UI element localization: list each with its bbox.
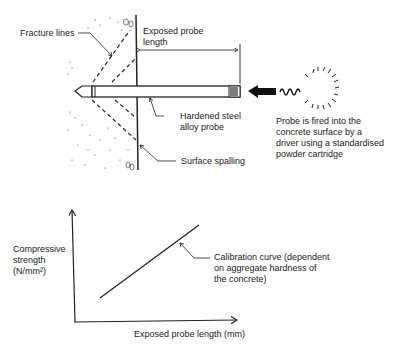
x-axis <box>74 320 237 322</box>
chart-y-label: Compressive strength (N/mm²) <box>13 244 66 277</box>
chart-x-label: Exposed probe length (mm) <box>134 329 245 340</box>
label-probe-fired: Probe is fired into the concrete surface… <box>276 116 384 160</box>
y-axis <box>72 210 75 322</box>
label-surface-spalling: Surface spalling <box>181 156 245 167</box>
probe-tip-icon <box>75 86 92 97</box>
firing-arrow-icon <box>248 85 276 98</box>
wave-squiggle-icon <box>280 89 300 95</box>
label-exposed-probe-length: Exposed probe length <box>143 26 204 48</box>
chart-annotation: Calibration curve (dependent on aggregat… <box>214 252 330 285</box>
label-fracture-lines: Fracture lines <box>20 28 75 39</box>
diagram-canvas <box>0 0 401 354</box>
calibration-curve <box>100 225 199 298</box>
explosion-burst-icon <box>305 67 339 109</box>
probe <box>75 86 240 97</box>
label-hardened-probe: Hardened steel alloy probe <box>180 111 241 133</box>
fracture-lines <box>92 30 136 140</box>
